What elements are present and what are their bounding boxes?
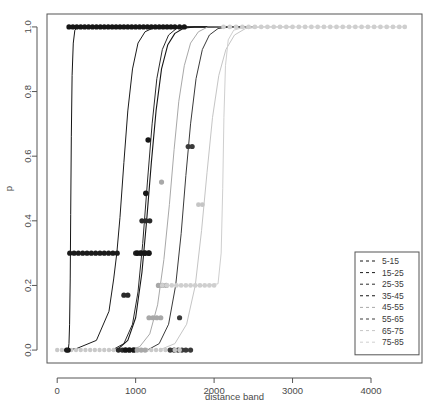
logistic-probability-chart: 01000200030004000 0.00.20.40.60.81.0 dis… [0, 0, 430, 417]
data-point [111, 348, 115, 352]
data-point [202, 283, 207, 288]
legend-label-5-15[interactable]: 5-15 [382, 256, 399, 266]
data-point [353, 25, 358, 30]
data-point [154, 348, 158, 352]
data-point [372, 25, 377, 30]
data-point [328, 25, 333, 30]
data-point [165, 283, 170, 288]
data-point [378, 25, 383, 30]
data-point [125, 293, 130, 298]
data-point [227, 25, 232, 30]
y-tick-label: 0.6 [22, 150, 33, 163]
data-point [143, 191, 149, 197]
data-point [315, 25, 320, 30]
data-point [190, 144, 195, 149]
y-tick-label: 1.0 [22, 20, 33, 33]
data-point [172, 348, 177, 353]
data-point [160, 283, 165, 288]
data-point [159, 348, 163, 352]
data-point [207, 283, 212, 288]
data-point [246, 25, 251, 30]
data-point [74, 348, 78, 352]
legend-label-45-55[interactable]: 45-55 [382, 302, 404, 312]
data-point [163, 348, 167, 352]
y-axis-title: p [3, 186, 14, 191]
data-point [146, 250, 152, 256]
data-point [149, 348, 153, 352]
legend-label-25-35[interactable]: 25-35 [382, 279, 404, 289]
y-tick-label: 0.8 [22, 85, 33, 98]
legend-label-65-75[interactable]: 65-75 [382, 326, 404, 336]
data-point [60, 348, 64, 352]
data-point [115, 251, 120, 256]
data-point [93, 348, 97, 352]
data-point [322, 25, 327, 30]
data-point [278, 25, 283, 30]
data-point [145, 137, 151, 143]
y-tick-label: 0.4 [22, 214, 33, 227]
data-point [55, 348, 59, 352]
data-point [107, 348, 111, 352]
data-point [183, 283, 188, 288]
legend-label-35-45[interactable]: 35-45 [382, 291, 404, 301]
data-point [221, 25, 226, 30]
data-point [365, 25, 370, 30]
data-point [397, 25, 402, 30]
chart-legend[interactable]: 5-1515-2525-3535-4545-5555-6565-7575-85 [355, 252, 419, 355]
data-point [179, 283, 184, 288]
data-point [83, 348, 87, 352]
data-point [158, 315, 163, 320]
y-tick-label: 0.0 [22, 343, 33, 356]
data-point [147, 218, 152, 223]
data-point [334, 25, 339, 30]
data-point [212, 283, 217, 288]
data-point [384, 25, 389, 30]
data-point [64, 347, 69, 352]
x-tick-label: 0 [55, 385, 60, 396]
data-point [290, 25, 295, 30]
data-point [284, 25, 289, 30]
data-point [102, 348, 106, 352]
data-point [265, 25, 270, 30]
data-point [309, 25, 314, 30]
data-point [79, 348, 83, 352]
legend-label-15-25[interactable]: 15-25 [382, 268, 404, 278]
data-point [234, 25, 239, 30]
data-point [183, 347, 188, 352]
data-point [88, 348, 92, 352]
data-point [198, 283, 203, 288]
data-point [97, 348, 101, 352]
data-point [188, 347, 193, 352]
x-tick-label: 3000 [282, 385, 303, 396]
y-tick-label: 0.2 [22, 279, 33, 292]
data-point [193, 283, 198, 288]
data-point [240, 25, 245, 30]
chart-figure: 01000200030004000 0.00.20.40.60.81.0 dis… [0, 0, 430, 417]
data-point [177, 24, 182, 29]
data-point [159, 179, 164, 184]
legend-label-75-85[interactable]: 75-85 [382, 337, 404, 347]
data-point [340, 25, 345, 30]
data-point [252, 25, 257, 30]
data-point [188, 283, 193, 288]
x-tick-label: 1000 [125, 385, 146, 396]
data-point [303, 25, 308, 30]
data-point [142, 347, 147, 352]
data-point [296, 25, 301, 30]
data-point [172, 24, 177, 29]
data-point [177, 315, 182, 320]
data-point [271, 25, 276, 30]
x-tick-label: 4000 [360, 385, 381, 396]
x-axis-title: distance band [205, 391, 264, 402]
data-point [200, 202, 205, 207]
data-point [391, 25, 396, 30]
data-point [174, 283, 179, 288]
data-point [347, 25, 352, 30]
data-point [259, 25, 264, 30]
data-point [182, 24, 187, 29]
data-point [359, 25, 364, 30]
data-point [402, 25, 407, 30]
data-point [169, 283, 174, 288]
data-point [177, 348, 182, 353]
legend-label-55-65[interactable]: 55-65 [382, 314, 404, 324]
